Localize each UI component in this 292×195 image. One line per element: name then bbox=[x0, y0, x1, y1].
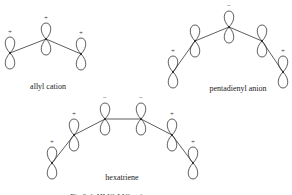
p-orbital-lobe bbox=[190, 25, 199, 41]
atom-node bbox=[171, 134, 173, 136]
p-orbital-lobe bbox=[278, 56, 287, 72]
phase-sign: + bbox=[170, 110, 174, 118]
atom-node bbox=[45, 38, 47, 40]
atom-node bbox=[228, 26, 230, 28]
atom-node bbox=[140, 118, 142, 120]
atom-node bbox=[261, 40, 263, 42]
p-orbital-lobe bbox=[224, 27, 233, 43]
p-orbital-lobe bbox=[167, 135, 176, 151]
p-orbital-lobe bbox=[100, 119, 109, 135]
label-hexatriene: hexatriene bbox=[105, 173, 139, 182]
molecule-allyl-cation: +++ bbox=[5, 14, 85, 70]
phase-sign: + bbox=[191, 138, 195, 146]
p-orbital-lobe bbox=[5, 37, 14, 53]
p-orbital-lobe bbox=[257, 25, 266, 41]
p-orbital-lobe bbox=[47, 163, 56, 179]
phase-sign: − bbox=[103, 94, 107, 102]
p-orbital-lobe bbox=[188, 147, 197, 163]
atom-node bbox=[194, 40, 196, 42]
label-allyl-cation: allyl cation bbox=[30, 82, 66, 91]
phase-sign: − bbox=[227, 2, 231, 10]
orbital-diagram: ++++−+++−−++ allyl cation pentadienyl an… bbox=[0, 0, 292, 195]
atom-node bbox=[282, 71, 284, 73]
p-orbital-lobe bbox=[224, 11, 233, 27]
p-orbital-lobe bbox=[69, 135, 78, 151]
p-orbital-lobe bbox=[188, 163, 197, 179]
p-orbital-lobe bbox=[136, 103, 145, 119]
phase-sign: − bbox=[139, 94, 143, 102]
p-orbital-lobe bbox=[76, 38, 85, 54]
phase-sign: + bbox=[72, 110, 76, 118]
atom-node bbox=[73, 134, 75, 136]
p-orbital-lobe bbox=[76, 54, 85, 70]
bond-line bbox=[195, 27, 229, 41]
p-orbital-lobe bbox=[190, 41, 199, 57]
bond-line bbox=[46, 39, 81, 54]
phase-sign: + bbox=[50, 138, 54, 146]
phase-sign: + bbox=[8, 28, 12, 36]
p-orbital-lobe bbox=[168, 72, 177, 88]
atom-node bbox=[80, 53, 82, 55]
p-orbital-lobe bbox=[41, 39, 50, 55]
molecule-hexatriene: ++−−++ bbox=[47, 94, 197, 179]
p-orbital-lobe bbox=[167, 119, 176, 135]
p-orbital-lobe bbox=[168, 56, 177, 72]
p-orbital-lobe bbox=[47, 147, 56, 163]
atom-node bbox=[192, 162, 194, 164]
phase-sign: + bbox=[44, 14, 48, 22]
p-orbital-lobe bbox=[69, 119, 78, 135]
label-pentadienyl-anion: pentadienyl anion bbox=[209, 84, 266, 93]
p-orbital-lobe bbox=[100, 103, 109, 119]
atom-node bbox=[51, 162, 53, 164]
atom-node bbox=[172, 71, 174, 73]
p-orbital-lobe bbox=[5, 53, 14, 69]
atom-node bbox=[104, 118, 106, 120]
p-orbital-lobe bbox=[136, 119, 145, 135]
bond-line bbox=[10, 39, 46, 53]
atom-node bbox=[9, 52, 11, 54]
phase-sign: + bbox=[79, 29, 83, 37]
phase-sign: + bbox=[281, 47, 285, 55]
p-orbital-lobe bbox=[41, 23, 50, 39]
p-orbital-lobe bbox=[257, 41, 266, 57]
molecule-pentadienyl-anion: +−+ bbox=[168, 2, 287, 88]
phase-sign: + bbox=[171, 47, 175, 55]
figure-caption: Fig 3.4. HMO MOs of ... bbox=[70, 193, 150, 195]
p-orbital-lobe bbox=[278, 72, 287, 88]
